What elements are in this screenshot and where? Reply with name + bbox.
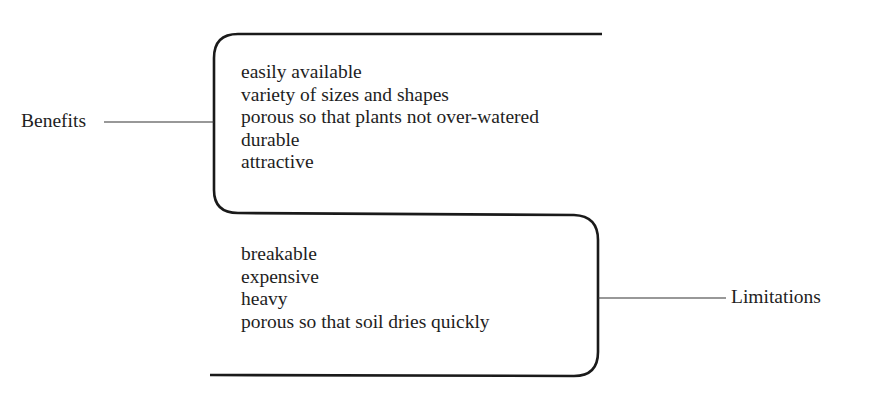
limitation-item: heavy — [241, 288, 490, 311]
benefits-list: easily available variety of sizes and sh… — [241, 61, 539, 174]
benefit-item: attractive — [241, 151, 539, 174]
benefits-label: Benefits — [21, 110, 86, 132]
limitation-item: breakable — [241, 243, 490, 266]
benefit-item: variety of sizes and shapes — [241, 84, 539, 107]
limitation-item: expensive — [241, 266, 490, 289]
limitations-list: breakable expensive heavy porous so that… — [241, 243, 490, 333]
benefit-item: durable — [241, 129, 539, 152]
limitations-label: Limitations — [731, 286, 821, 308]
limitation-item: porous so that soil dries quickly — [241, 311, 490, 334]
benefit-item: easily available — [241, 61, 539, 84]
benefit-item: porous so that plants not over-watered — [241, 106, 539, 129]
